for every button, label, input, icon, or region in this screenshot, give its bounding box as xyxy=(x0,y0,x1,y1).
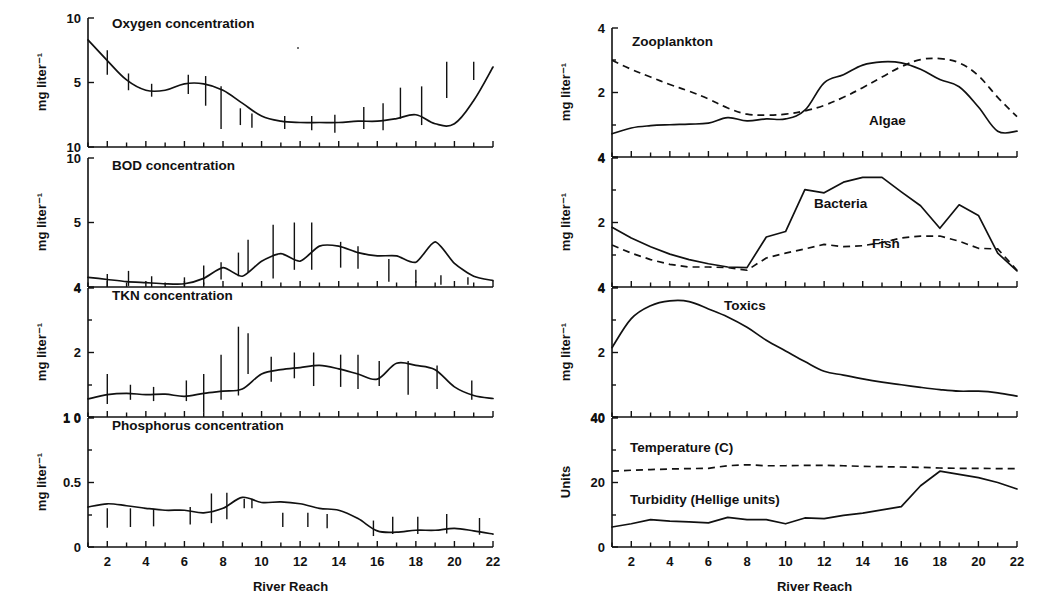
x-tick-label: 8 xyxy=(743,554,750,569)
figure-root: 10510mg liter⁻¹Oxygen concentration 1054… xyxy=(0,0,1048,616)
y-axis-title: mg liter⁻¹ xyxy=(558,323,573,381)
y-tick-label: 40 xyxy=(591,411,605,426)
x-tick-label: 12 xyxy=(293,554,307,569)
panel-units: 40200UnitsTemperature (C)Turbidity (Hell… xyxy=(524,400,1048,590)
x-axis-title: River Reach xyxy=(777,579,852,594)
panel-title: Phosphorus concentration xyxy=(112,418,284,433)
panel-plankton: 424mg liter⁻¹ZooplanktonAlgae xyxy=(524,10,1048,160)
y-axis-title: mg liter⁻¹ xyxy=(34,453,49,511)
panel-phosphorus: 1 00.50mg liter⁻¹Phosphorus concentratio… xyxy=(0,400,524,590)
y-axis-title: Units xyxy=(558,466,573,499)
x-tick-label: 22 xyxy=(1010,554,1024,569)
y-tick-label: 1 0 xyxy=(63,411,81,426)
series-curve-temperature-c xyxy=(612,465,1017,471)
panel-title: BOD concentration xyxy=(112,158,235,173)
panel-title: Oxygen concentration xyxy=(112,16,255,31)
x-tick-label: 16 xyxy=(894,554,908,569)
y-tick-label: 5 xyxy=(74,215,81,230)
panel-bod: 1054mg liter⁻¹BOD concentration xyxy=(0,140,524,290)
series-curve-fish xyxy=(612,236,1017,270)
series-label-bacteria: Bacteria xyxy=(814,196,868,211)
series-curve-phosphorus-concentration xyxy=(88,497,493,534)
series-label-turbidity-hellige-units: Turbidity (Hellige units) xyxy=(630,492,780,507)
x-tick-label: 12 xyxy=(817,554,831,569)
y-axis-title: mg liter⁻¹ xyxy=(34,53,49,111)
series-curve-bacteria xyxy=(612,177,1017,271)
scan-speck xyxy=(297,47,299,49)
series-curve-oxygen-concentration xyxy=(88,40,493,126)
panel-tkn: 421 0mg liter⁻¹TKN concentration xyxy=(0,270,524,420)
units-plot: 40200UnitsTemperature (C)Turbidity (Hell… xyxy=(558,411,1024,595)
x-tick-label: 8 xyxy=(219,554,226,569)
left-column: 10510mg liter⁻¹Oxygen concentration 1054… xyxy=(0,0,524,616)
y-tick-label: 2 xyxy=(598,85,605,100)
y-tick-label: 0 xyxy=(74,540,81,555)
series-label-algae: Algae xyxy=(869,113,906,128)
y-tick-label: 4 xyxy=(598,151,606,166)
series-label-zooplankton: Zooplankton xyxy=(632,34,713,49)
x-tick-label: 6 xyxy=(705,554,712,569)
x-tick-label: 18 xyxy=(933,554,947,569)
y-tick-label: 10 xyxy=(67,151,81,166)
x-tick-label: 10 xyxy=(778,554,792,569)
panel-oxygen: 10510mg liter⁻¹Oxygen concentration xyxy=(0,0,524,150)
x-tick-label: 2 xyxy=(104,554,111,569)
panel-biota: 424mg liter⁻¹BacteriaFish xyxy=(524,140,1048,290)
y-tick-label: 0 xyxy=(598,540,605,555)
y-axis-title: mg liter⁻¹ xyxy=(34,323,49,381)
x-tick-label: 2 xyxy=(628,554,635,569)
x-tick-label: 4 xyxy=(666,554,674,569)
right-column: 424mg liter⁻¹ZooplanktonAlgae 424mg lite… xyxy=(524,0,1048,616)
y-axis-title: mg liter⁻¹ xyxy=(558,63,573,121)
x-tick-label: 14 xyxy=(331,554,346,569)
series-label-fish: Fish xyxy=(872,236,900,251)
y-tick-label: 10 xyxy=(67,11,81,26)
y-tick-label: 2 xyxy=(74,345,81,360)
x-tick-label: 16 xyxy=(370,554,384,569)
y-tick-label: 5 xyxy=(74,75,81,90)
y-tick-label: 2 xyxy=(598,345,605,360)
x-tick-label: 14 xyxy=(855,554,870,569)
x-tick-label: 4 xyxy=(142,554,150,569)
series-label-toxics: Toxics xyxy=(724,298,766,313)
series-curve-algae xyxy=(612,62,1017,134)
y-tick-label: 20 xyxy=(591,475,605,490)
series-label-temperature-c: Temperature (C) xyxy=(630,440,733,455)
x-tick-label: 20 xyxy=(971,554,985,569)
y-tick-label: 2 xyxy=(598,215,605,230)
panel-title: TKN concentration xyxy=(112,288,233,303)
y-tick-label: 4 xyxy=(598,21,606,36)
y-tick-label: 4 xyxy=(74,281,82,296)
x-tick-label: 20 xyxy=(447,554,461,569)
y-axis-title: mg liter⁻¹ xyxy=(558,193,573,251)
x-tick-label: 18 xyxy=(409,554,423,569)
x-tick-label: 6 xyxy=(181,554,188,569)
y-axis-title: mg liter⁻¹ xyxy=(34,193,49,251)
x-tick-label: 10 xyxy=(254,554,268,569)
series-curve-zooplankton xyxy=(612,58,1017,116)
series-curve-toxics xyxy=(612,300,1017,396)
oxygen-plot: 10510mg liter⁻¹Oxygen concentration xyxy=(34,11,493,155)
x-axis-title: River Reach xyxy=(253,579,328,594)
y-tick-label: 0.5 xyxy=(63,475,81,490)
x-tick-label: 22 xyxy=(486,554,500,569)
panel-toxics: 4240mg liter⁻¹Toxics xyxy=(524,270,1048,420)
series-curve-tkn-concentration xyxy=(88,362,493,398)
y-tick-label: 4 xyxy=(598,281,606,296)
phosphorus-plot: 1 00.50mg liter⁻¹Phosphorus concentratio… xyxy=(34,411,500,595)
